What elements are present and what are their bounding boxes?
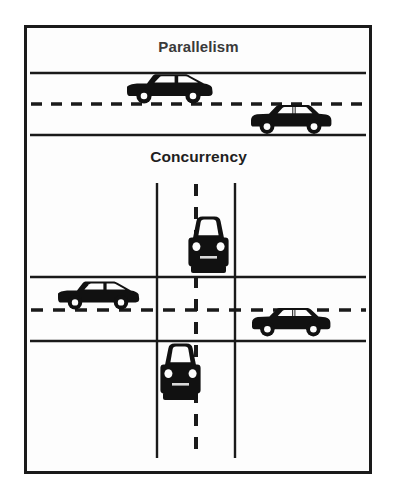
car-concurrency-east bbox=[252, 308, 330, 336]
car-parallel-lower bbox=[251, 105, 331, 134]
headlight bbox=[192, 242, 200, 251]
car-concurrency-west bbox=[58, 282, 139, 310]
headlight bbox=[164, 369, 172, 378]
roads-and-vehicles-layer bbox=[0, 0, 397, 498]
headlight bbox=[217, 242, 225, 251]
car-concurrency-north bbox=[188, 217, 228, 273]
headlight bbox=[189, 369, 197, 378]
diagram-canvas: Parallelism Concurrency bbox=[0, 0, 397, 498]
car-parallel-upper bbox=[127, 74, 213, 103]
